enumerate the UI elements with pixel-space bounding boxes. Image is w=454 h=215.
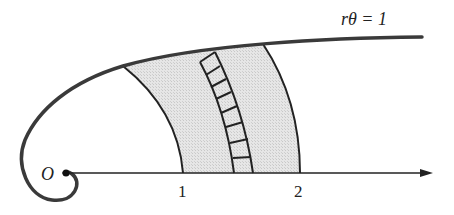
polar-area-diagram: rθ = 1 O 1 2 xyxy=(0,0,454,215)
origin-dot xyxy=(63,170,70,177)
tick-label-2: 2 xyxy=(294,183,303,200)
axis-arrow-icon xyxy=(420,169,433,177)
origin-label: O xyxy=(41,165,54,183)
diagram-canvas xyxy=(0,0,454,215)
curve-label: rθ = 1 xyxy=(341,10,387,28)
tick-label-1: 1 xyxy=(178,183,187,200)
